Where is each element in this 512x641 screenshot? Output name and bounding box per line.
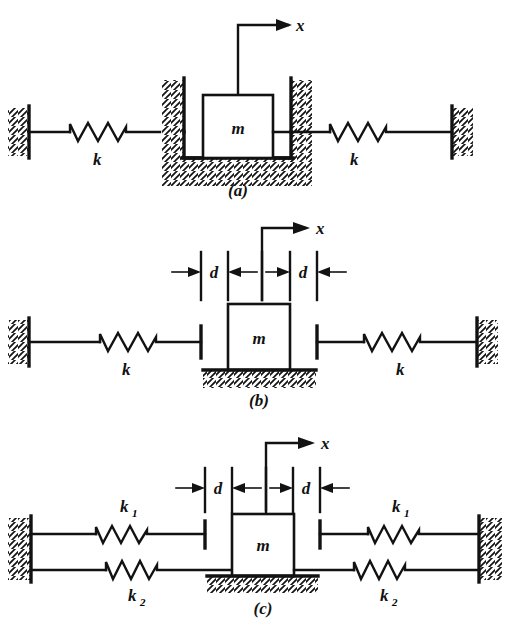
- spring-mass-systems-figure: x k: [0, 0, 512, 641]
- panel-c-upper-left-spring-label: k: [120, 497, 129, 516]
- panel-c-upper-right-spring-subscript: 1: [404, 507, 410, 519]
- panel-a-right-spring: [330, 123, 452, 141]
- panel-c-upper-left-spring-subscript: 1: [132, 507, 138, 519]
- panel-b: x d d: [8, 219, 498, 410]
- panel-c-right-wall: [479, 516, 502, 582]
- panel-c-ground: [207, 576, 318, 593]
- panel-b-mass-label: m: [252, 329, 265, 348]
- panel-c-caption: (c): [254, 599, 273, 618]
- panel-b-right-wall: [477, 318, 498, 366]
- panel-c-lower-right-spring-label: k: [380, 586, 389, 605]
- panel-a: x k: [8, 16, 473, 200]
- panel-c-upper-left-spring: [96, 526, 205, 543]
- panel-c-gap-label-right: d: [302, 479, 311, 498]
- panel-b-right-spring-label: k: [396, 360, 405, 379]
- panel-a-coordinate-label: x: [295, 16, 305, 35]
- panel-a-right-spring-label: k: [350, 150, 359, 169]
- panel-b-left-wall: [8, 318, 29, 366]
- panel-b-gap-label-right: d: [299, 263, 308, 282]
- panel-c-upper-right-spring-label: k: [392, 497, 401, 516]
- panel-b-caption: (b): [249, 391, 269, 410]
- panel-a-caption: (a): [228, 181, 248, 200]
- panel-b-gap-label-left: d: [210, 263, 219, 282]
- panel-c: x d d: [8, 434, 502, 618]
- panel-c-upper-right-spring: [368, 526, 479, 543]
- panel-c-coordinate-label: x: [320, 434, 330, 453]
- panel-b-coordinate-arrow: [262, 222, 310, 300]
- panel-c-left-wall: [8, 516, 31, 582]
- panel-a-left-spring-label: k: [93, 150, 102, 169]
- panel-a-mass-label: m: [231, 119, 244, 138]
- panel-c-lower-right-spring-subscript: 2: [391, 596, 398, 608]
- panel-a-left-wall: [8, 106, 29, 158]
- panel-b-left-spring-label: k: [122, 360, 131, 379]
- panel-a-right-wall: [452, 106, 473, 158]
- panel-b-right-spring: [364, 333, 477, 351]
- panel-b-ground: [203, 370, 316, 388]
- figure-canvas: x k: [0, 0, 512, 641]
- panel-a-left-spring: [70, 123, 160, 141]
- panel-c-gap-label-left: d: [214, 479, 223, 498]
- panel-c-lower-left-spring-subscript: 2: [139, 596, 146, 608]
- panel-c-lower-left-spring-label: k: [128, 586, 137, 605]
- panel-c-lower-right-spring: [354, 561, 479, 579]
- panel-a-coordinate-arrow: [238, 19, 292, 100]
- panel-c-mass-label: m: [256, 536, 269, 555]
- panel-c-coordinate-arrow: [266, 437, 315, 510]
- panel-b-coordinate-label: x: [315, 219, 325, 238]
- panel-b-left-spring: [100, 333, 201, 351]
